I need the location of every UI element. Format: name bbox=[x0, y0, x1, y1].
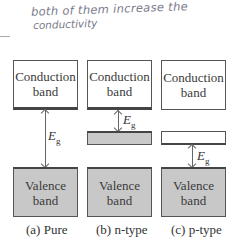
caption-p-type: (c) p-type bbox=[171, 222, 222, 238]
donor-level bbox=[87, 131, 152, 145]
conduction-label: Conduction bbox=[15, 69, 76, 84]
conduction-label-2: band bbox=[181, 85, 206, 100]
band-gap-label-p-type: Eg bbox=[197, 148, 209, 166]
conduction-label-2: band bbox=[107, 84, 132, 99]
valence-band-n-type: Valence band bbox=[87, 167, 152, 217]
caption-pure: (a) Pure bbox=[26, 222, 68, 238]
band-gap-label-n-type: Eg bbox=[123, 112, 135, 130]
band-gap-label-pure: Eg bbox=[48, 128, 60, 146]
conduction-label-2: band bbox=[33, 84, 58, 99]
valence-label-2: band bbox=[181, 193, 206, 208]
conduction-label: Conduction bbox=[89, 69, 150, 84]
conduction-band-p-type: Conduction band bbox=[161, 60, 226, 110]
handwritten-note-line2: conductivity bbox=[33, 17, 98, 32]
handwritten-note-line1: both of them increase the bbox=[31, 0, 188, 18]
valence-label-2: band bbox=[107, 193, 132, 208]
valence-label: Valence bbox=[173, 178, 214, 193]
valence-label-2: band bbox=[33, 193, 58, 208]
band-gap-arrow-n-type bbox=[118, 111, 119, 131]
conduction-band-pure: Conduction band bbox=[13, 60, 78, 110]
margin-mark bbox=[0, 36, 10, 37]
valence-band-p-type: Valence band bbox=[161, 167, 226, 217]
valence-band-pure: Valence band bbox=[13, 167, 78, 217]
acceptor-level bbox=[161, 131, 226, 145]
valence-label: Valence bbox=[99, 178, 140, 193]
conduction-label: Conduction bbox=[163, 70, 224, 85]
conduction-band-n-type: Conduction band bbox=[87, 60, 152, 110]
band-gap-arrow-p-type bbox=[192, 145, 193, 167]
band-gap-arrow-pure bbox=[45, 110, 46, 167]
valence-label: Valence bbox=[25, 178, 66, 193]
caption-n-type: (b) n-type bbox=[96, 222, 148, 238]
